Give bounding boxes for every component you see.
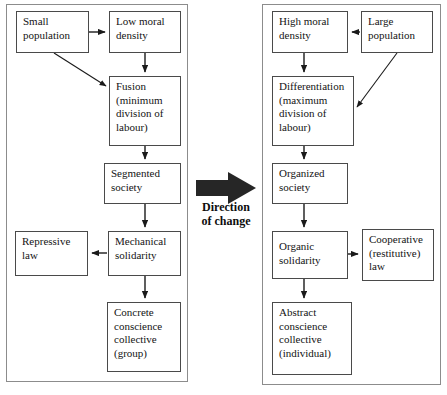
node-small-population: Small population [16, 11, 89, 53]
node-organized-society: Organized society [272, 163, 348, 204]
node-large-population: Large population [361, 11, 433, 53]
direction-of-change-label: Direction of change [190, 200, 262, 228]
node-concrete-conscience: Concrete conscience collective (group) [107, 302, 181, 372]
node-cooperative-law: Cooperative (restitutive) law [362, 229, 434, 281]
node-fusion: Fusion (minimum division of labour) [109, 76, 181, 146]
node-high-moral-density: High moral density [272, 11, 348, 53]
node-repressive-law: Repressive law [15, 231, 88, 276]
node-organic-solidarity: Organic solidarity [272, 231, 348, 279]
node-segmented-society: Segmented society [104, 163, 181, 204]
node-mechanical-solidarity: Mechanical solidarity [108, 231, 181, 276]
node-differentiation: Differentiation (maximum division of lab… [272, 76, 354, 146]
durkheim-flow-diagram: Small population Low moral density Fusio… [0, 0, 447, 395]
node-abstract-conscience: Abstract conscience collective (individu… [272, 302, 352, 375]
node-low-moral-density: Low moral density [109, 11, 181, 53]
